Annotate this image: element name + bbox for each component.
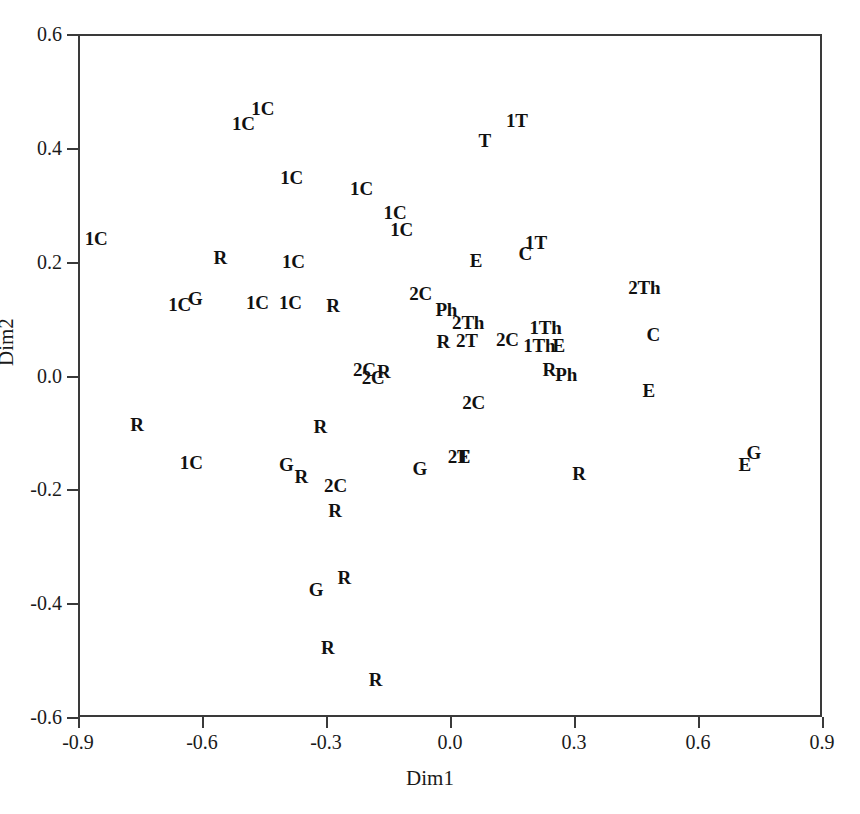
data-point-label: R [313, 416, 327, 435]
data-point-label: 2T [456, 330, 478, 349]
y-tick-mark [67, 489, 78, 491]
data-point-label: R [326, 296, 340, 315]
data-point-label: R [213, 248, 227, 267]
x-tick-label: 0.6 [686, 731, 711, 754]
y-tick-mark [67, 148, 78, 150]
data-point-label: 1C [280, 167, 303, 186]
data-point-label: G [309, 579, 324, 598]
data-point-label: R [130, 414, 144, 433]
data-point-label: G [413, 459, 428, 478]
y-tick-mark [67, 34, 78, 36]
x-tick-mark [698, 717, 700, 728]
x-tick-label: -0.3 [310, 731, 342, 754]
data-point-label: C [518, 244, 532, 263]
data-point-label: 2Th [628, 277, 660, 296]
x-axis-title: Dim1 [0, 766, 860, 791]
data-point-label: G [188, 289, 203, 308]
y-tick-mark [67, 717, 78, 719]
data-point-label: R [377, 361, 391, 380]
y-tick-label: -0.2 [30, 478, 62, 501]
y-tick-mark [67, 376, 78, 378]
data-point-label: R [369, 669, 383, 688]
data-point-label: 1C [390, 220, 413, 239]
data-point-label: R [542, 360, 556, 379]
x-tick-label: -0.6 [186, 731, 218, 754]
y-tick-label: -0.4 [30, 592, 62, 615]
data-point-label: 1C [350, 178, 373, 197]
data-point-label: 1T [506, 110, 528, 129]
x-tick-mark [574, 717, 576, 728]
data-point-label: 2T [448, 446, 470, 465]
data-point-label: R [337, 567, 351, 586]
y-tick-label: 0.4 [37, 136, 62, 159]
data-point-label: C [647, 324, 661, 343]
data-point-label: R [321, 637, 335, 656]
data-point-label: 1Th [523, 335, 555, 354]
data-point-label: 1C [251, 98, 274, 117]
x-tick-label: -0.9 [62, 731, 94, 754]
scatter-plot-figure: 0.60.40.20.0-0.2-0.4-0.6 -0.9-0.6-0.30.0… [0, 0, 860, 814]
data-point-label: 2C [462, 393, 485, 412]
data-point-label: 1C [232, 114, 255, 133]
y-tick-mark [67, 262, 78, 264]
data-point-label: R [294, 466, 308, 485]
data-point-label: E [552, 335, 564, 354]
data-point-label: E [738, 454, 750, 473]
x-tick-label: 0.0 [438, 731, 463, 754]
data-point-label: R [437, 331, 451, 350]
data-point-label: R [328, 501, 342, 520]
y-axis-title: Dim2 [0, 318, 19, 366]
data-point-label: 2C [496, 330, 519, 349]
data-point-label: E [470, 250, 482, 269]
x-tick-label: 0.9 [810, 731, 835, 754]
data-point-label: G [279, 454, 294, 473]
x-tick-mark [326, 717, 328, 728]
data-point-label: 1C [246, 292, 269, 311]
data-point-label: 2C [409, 283, 432, 302]
data-point-label: R [572, 464, 586, 483]
data-point-label: 1C [279, 293, 302, 312]
data-point-label: 1C [180, 453, 203, 472]
data-point-label: E [643, 381, 655, 400]
x-tick-label: 0.3 [562, 731, 587, 754]
plot-area: 0.60.40.20.0-0.2-0.4-0.6 -0.9-0.6-0.30.0… [78, 34, 822, 717]
y-tick-mark [67, 603, 78, 605]
data-point-label: T [478, 130, 490, 149]
x-tick-mark [822, 717, 824, 728]
data-point-label: 2C [324, 476, 347, 495]
data-point-label: 1C [85, 228, 108, 247]
y-tick-label: 0.2 [37, 250, 62, 273]
x-tick-mark [202, 717, 204, 728]
data-point-label: Ph [555, 364, 577, 383]
y-tick-label: 0.0 [37, 364, 62, 387]
data-point-label: 1C [282, 252, 305, 271]
y-tick-label: 0.6 [37, 23, 62, 46]
x-tick-mark [450, 717, 452, 728]
x-tick-mark [78, 717, 80, 728]
y-tick-label: -0.6 [30, 706, 62, 729]
